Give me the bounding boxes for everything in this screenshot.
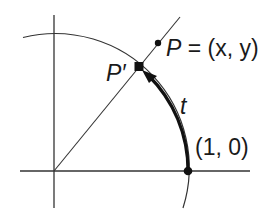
label-arc-t: t xyxy=(180,95,186,118)
label-p: P = (x, y) xyxy=(166,37,259,60)
point-p xyxy=(155,40,161,46)
point-1-0 xyxy=(184,167,193,176)
label-p-prime: P′ xyxy=(106,62,126,85)
unit-circle-diagram: P = (x, y) P′ t (1, 0) xyxy=(0,0,273,219)
ray-through-p xyxy=(54,17,180,171)
label-p-var: P xyxy=(166,35,181,61)
label-p-coords: = (x, y) xyxy=(188,35,259,61)
diagram-canvas xyxy=(0,0,273,219)
point-p-prime xyxy=(135,62,144,71)
label-unit-point: (1, 0) xyxy=(195,136,249,159)
